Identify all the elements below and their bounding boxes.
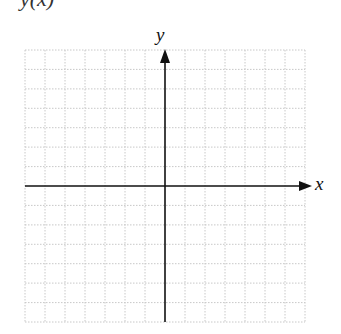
y-axis-arrow-icon [160, 49, 170, 63]
x-axis [25, 181, 312, 191]
coordinate-plane [0, 0, 341, 334]
x-axis-label: x [315, 173, 323, 195]
y-axis-label: y [156, 24, 164, 46]
